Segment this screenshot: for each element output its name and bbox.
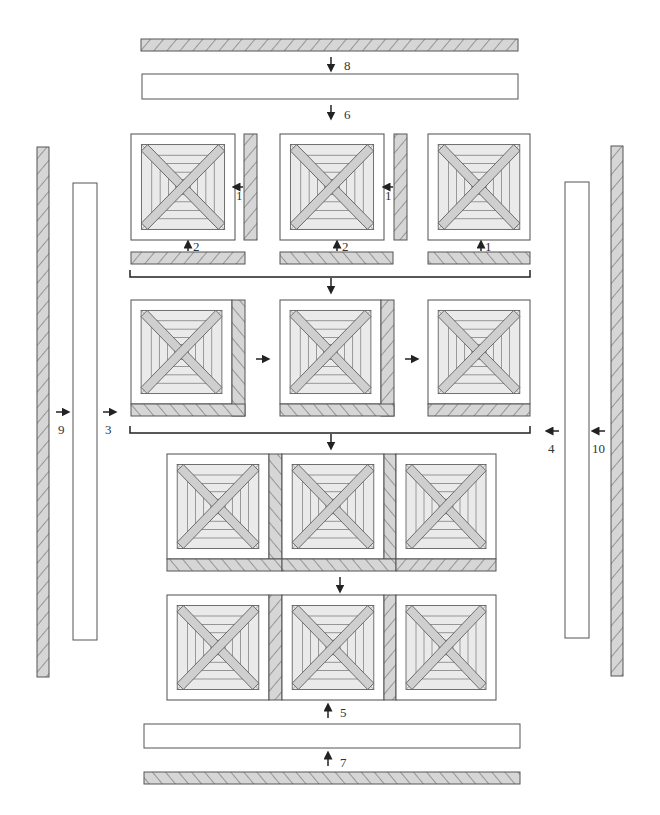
svg-text:7: 7 [340,755,347,770]
arrow-8: 8 [331,57,351,73]
row-3 [167,454,496,571]
row-2 [131,300,530,416]
svg-text:2: 2 [342,239,349,254]
svg-text:4: 4 [548,441,555,456]
bracket-2 [130,426,530,446]
left-hatched-strip [37,147,49,677]
svg-text:1: 1 [385,188,392,203]
quilt-assembly-diagram: 8 6 1 2 1 2 1 [0,0,660,815]
right-white-strip [565,182,589,638]
svg-text:10: 10 [592,441,605,456]
top-hatched-strip [141,39,518,51]
svg-text:3: 3 [105,422,112,437]
svg-text:8: 8 [344,58,351,73]
bracket-1 [130,270,530,290]
arrow-7: 7 [328,755,347,770]
arrow-9: 9 [56,412,66,437]
svg-text:1: 1 [485,239,492,254]
right-hatched-strip [611,146,623,676]
top-white-strip [142,74,518,99]
svg-text:5: 5 [340,705,347,720]
arrow-5: 5 [328,705,347,720]
svg-text:2: 2 [193,239,200,254]
bottom-hatched-strip [144,772,520,784]
svg-text:9: 9 [58,422,65,437]
arrow-3: 3 [103,412,113,437]
arrow-4: 4 [548,431,559,456]
arrow-10: 10 [592,431,605,456]
left-white-strip [73,183,97,640]
row-4 [167,595,496,700]
svg-text:1: 1 [236,188,243,203]
arrow-6: 6 [331,105,351,122]
bottom-white-strip [144,724,520,748]
svg-text:6: 6 [344,107,351,122]
row-1: 1 2 1 2 1 [131,134,530,264]
